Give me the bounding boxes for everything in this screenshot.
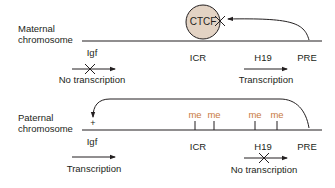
methyl-mark-1: me (188, 109, 201, 120)
paternal-h19-status: No transcription (231, 164, 298, 175)
paternal-icr-label: ICR (190, 141, 206, 152)
ctcf-label: CTCF (190, 16, 217, 27)
maternal-label-line1: Maternal (18, 23, 73, 34)
maternal-pre-label: PRE (297, 52, 317, 63)
paternal-label-line2: chromosome (18, 123, 73, 134)
maternal-h19-label: H19 (254, 52, 271, 63)
maternal-icr-label: ICR (190, 52, 206, 63)
maternal-label: Maternal chromosome (18, 23, 73, 45)
maternal-label-line2: chromosome (18, 34, 73, 45)
paternal-igf-label: Igf (87, 136, 98, 147)
methyl-mark-3: me (248, 109, 261, 120)
paternal-igf-status: Transcription (67, 163, 122, 174)
maternal-igf-status: No transcription (59, 74, 126, 85)
maternal-igf-label: Igf (87, 47, 98, 58)
paternal-label: Paternal chromosome (18, 112, 73, 134)
methyl-ticks (195, 121, 277, 130)
methyl-mark-2: me (207, 109, 220, 120)
paternal-h19-label: H19 (254, 141, 271, 152)
enhancer-arrow-maternal (228, 19, 309, 40)
methyl-mark-4: me (270, 109, 283, 120)
maternal-h19-status: Transcription (239, 74, 294, 85)
paternal-label-line1: Paternal (18, 112, 73, 123)
enhancer-plus-mark: + (90, 118, 95, 129)
paternal-pre-label: PRE (297, 141, 317, 152)
